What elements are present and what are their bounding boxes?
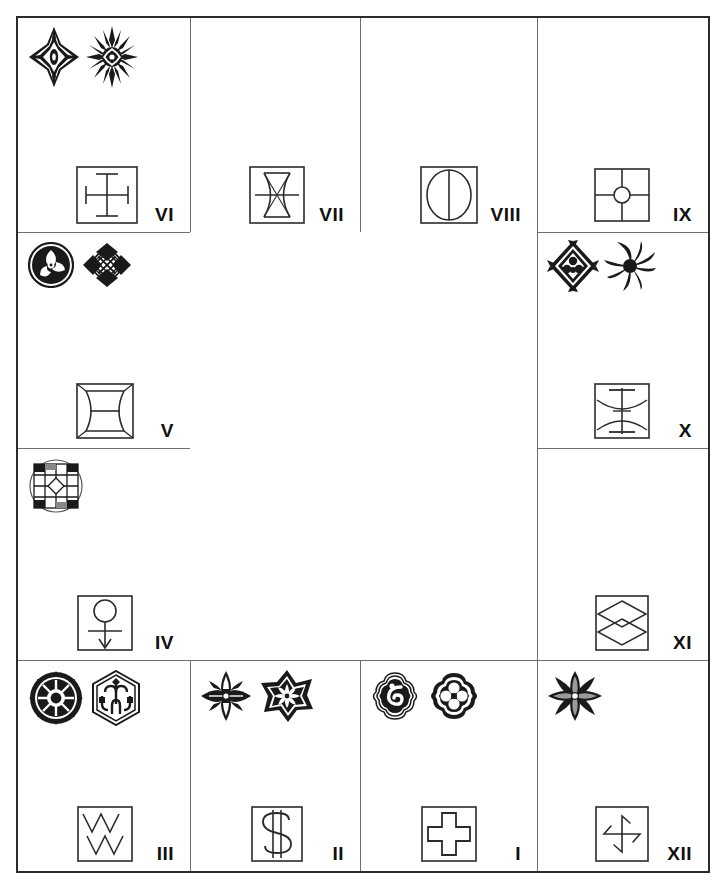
checkered-circular-grid-ornament — [28, 458, 84, 514]
radiant-starburst-ornament — [86, 26, 138, 88]
glyph-ii — [244, 803, 310, 865]
glyph-vi — [74, 164, 140, 226]
numeral-v: V — [161, 421, 174, 440]
diamond-floral-ornament — [547, 240, 599, 292]
numeral-xi: XI — [673, 633, 692, 652]
motif-group-iii — [28, 670, 142, 726]
four-petal-flower-ornament — [547, 670, 603, 722]
circular-triskelion-swirl-ornament — [28, 242, 74, 288]
numeral-viii: VIII — [490, 205, 521, 224]
spoked-sun-wheel-ornament — [28, 670, 84, 726]
cell-viii[interactable]: VIII — [360, 18, 537, 232]
hexagonal-knot-ornament — [90, 670, 142, 726]
numeral-vi: VI — [155, 205, 174, 224]
numeral-iv: IV — [155, 633, 174, 652]
quatrefoil-clover-ornament — [428, 672, 480, 720]
glyph-vii — [244, 164, 310, 226]
cell-x[interactable]: X — [537, 232, 708, 448]
numeral-x: X — [679, 421, 692, 440]
motif-group-ii — [200, 670, 314, 722]
cell-v[interactable]: V — [18, 232, 190, 448]
glyph-xii — [589, 803, 655, 865]
cell-xi[interactable]: XI — [537, 448, 708, 660]
glyph-xi — [589, 592, 655, 654]
motif-group-iv — [28, 458, 84, 514]
glyph-x — [589, 380, 655, 442]
numeral-iii: III — [157, 844, 174, 863]
motif-group-vi — [28, 26, 138, 88]
numeral-vii: VII — [319, 205, 344, 224]
numeral-ii: II — [332, 844, 344, 863]
fleur-de-lis-ornament — [200, 670, 252, 722]
cell-iv[interactable]: IV — [18, 448, 190, 660]
motif-group-v — [28, 242, 132, 288]
glyph-v — [72, 380, 138, 442]
quatrefoil-spiral-ornament — [370, 672, 420, 720]
motif-group-xii — [547, 670, 603, 722]
numeral-xii: XII — [667, 844, 692, 863]
glyph-iii — [72, 803, 138, 865]
ornament-symbol-sheet: VI VII VIII — [0, 0, 725, 888]
motif-group-i — [370, 672, 480, 720]
glyph-ix — [589, 164, 655, 226]
cell-vi[interactable]: VI — [18, 18, 190, 232]
cell-xii[interactable]: XII — [537, 660, 708, 871]
cell-vii[interactable]: VII — [190, 18, 360, 232]
numeral-i: I — [515, 844, 521, 863]
cell-ii[interactable]: II — [190, 660, 360, 871]
eight-point-star-diamond-ornament — [28, 26, 80, 88]
cell-ix[interactable]: IX — [537, 18, 708, 232]
motif-group-x — [547, 240, 657, 292]
glyph-i — [416, 803, 482, 865]
pinwheel-spiral-ornament — [603, 240, 657, 292]
glyph-viii — [416, 164, 482, 226]
glyph-iv — [72, 592, 138, 654]
eight-point-star-flower-ornament — [260, 670, 314, 722]
diamond-lattice-ornament — [82, 242, 132, 288]
cell-iii[interactable]: III — [18, 660, 190, 871]
cell-i[interactable]: I — [360, 660, 537, 871]
numeral-ix: IX — [673, 205, 692, 224]
empty-center-region — [190, 232, 537, 660]
